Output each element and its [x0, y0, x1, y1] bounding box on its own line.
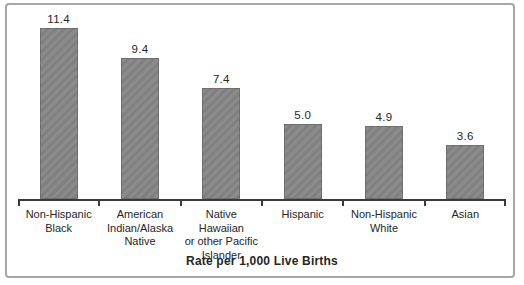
bar-column: 4.9: [343, 5, 424, 199]
bar: [284, 124, 322, 199]
category-label-line: or other Pacific: [182, 235, 261, 249]
bar-column: 5.0: [262, 5, 343, 199]
axis-tick: [180, 201, 182, 206]
figure-frame: 11.49.47.45.04.93.6 Non-HispanicBlackAme…: [5, 3, 515, 278]
bar-column: 11.4: [18, 5, 99, 199]
x-axis-title: Rate per 1,000 Live Births: [18, 254, 506, 268]
category-label-line: Asian: [426, 208, 505, 222]
bar-value-label: 5.0: [294, 109, 311, 122]
bar: [40, 28, 78, 199]
axis-tick: [504, 201, 506, 206]
category-label-line: Non-Hispanic: [344, 208, 423, 222]
plot-area: 11.49.47.45.04.93.6: [18, 5, 506, 199]
axis-tick: [342, 201, 344, 206]
category-label-line: White: [344, 222, 423, 236]
category-label-line: Indian/Alaska: [100, 222, 179, 236]
axis-tick: [261, 201, 263, 206]
bar-column: 3.6: [425, 5, 506, 199]
x-axis-line: [18, 199, 506, 201]
category-label-line: American: [100, 208, 179, 222]
bar-value-label: 4.9: [376, 111, 393, 124]
category-label-line: Hispanic: [263, 208, 342, 222]
axis-tick: [98, 201, 100, 206]
bar: [365, 126, 403, 200]
bar-value-label: 11.4: [47, 13, 70, 26]
bar-column: 9.4: [99, 5, 180, 199]
bar-column: 7.4: [181, 5, 262, 199]
bar-value-label: 9.4: [132, 43, 149, 56]
bar-value-label: 3.6: [457, 130, 474, 143]
axis-tick: [18, 201, 20, 206]
category-label-line: Non-Hispanic: [19, 208, 98, 222]
category-label-line: Native Hawaiian: [182, 208, 261, 235]
bar: [202, 88, 240, 199]
bar: [121, 58, 159, 199]
category-label-line: Black: [19, 222, 98, 236]
bar: [446, 145, 484, 199]
category-label-line: Native: [100, 235, 179, 249]
bar-value-label: 7.4: [213, 73, 230, 86]
axis-tick: [424, 201, 426, 206]
